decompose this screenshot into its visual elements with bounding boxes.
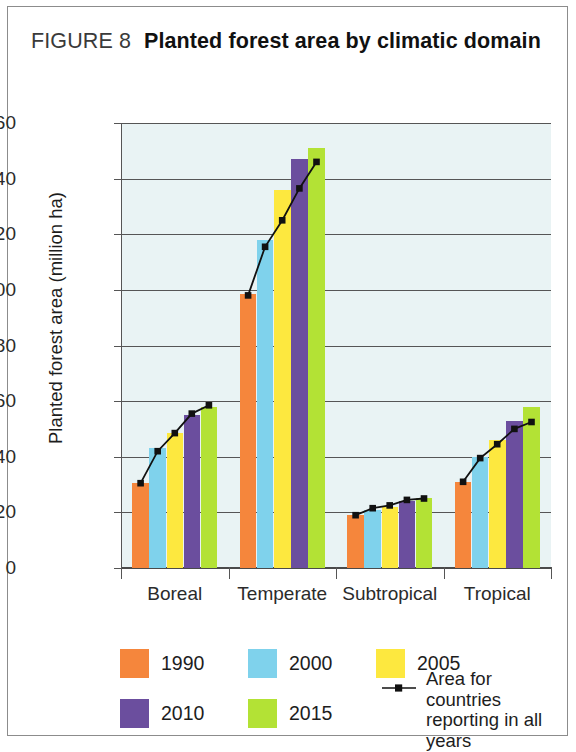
legend-swatch-2005 xyxy=(376,649,405,678)
overlay-line-series xyxy=(121,123,551,568)
category-tick xyxy=(551,567,552,579)
overlay-line-marker xyxy=(137,480,144,487)
overlay-line-marker xyxy=(352,512,359,519)
category-tick xyxy=(444,567,445,579)
y-tick-label: 160 xyxy=(0,112,16,134)
y-axis-title: Planted forest area (million ha) xyxy=(45,128,67,508)
overlay-line-marker xyxy=(404,497,411,504)
overlay-line-marker xyxy=(279,217,286,224)
chart-legend: 19902000200520102015 Area for countries … xyxy=(8,631,569,731)
y-tick-label: 140 xyxy=(0,168,16,190)
legend-swatch-2000 xyxy=(248,649,277,678)
legend-swatch-2015 xyxy=(248,699,277,728)
overlay-line-marker xyxy=(386,502,393,509)
y-tick-label: 120 xyxy=(0,223,16,245)
overlay-line-segment xyxy=(248,162,316,296)
overlay-line-marker xyxy=(154,448,161,455)
y-tick-label: 40 xyxy=(0,446,16,468)
overlay-line-marker xyxy=(189,410,196,417)
overlay-line-marker xyxy=(369,505,376,512)
overlay-line-marker xyxy=(206,402,213,409)
overlay-line-marker xyxy=(494,441,501,448)
legend-swatch-1990 xyxy=(120,649,149,678)
y-tick-label: 60 xyxy=(0,390,16,412)
figure-frame: FIGURE 8Planted forest area by climatic … xyxy=(7,6,568,736)
legend-label-2015: 2015 xyxy=(289,702,332,725)
legend-swatch-2010 xyxy=(120,699,149,728)
overlay-line-segment xyxy=(463,422,531,482)
overlay-line-marker xyxy=(528,419,535,426)
legend-label-2010: 2010 xyxy=(161,702,204,725)
overlay-line-marker xyxy=(477,455,484,462)
category-tick xyxy=(229,567,230,579)
y-tick-label: 100 xyxy=(0,279,16,301)
overlay-line-marker xyxy=(421,495,428,502)
chart-plot: 020406080100120140160 BorealTemperateSub… xyxy=(8,7,569,737)
legend-label-2000: 2000 xyxy=(289,652,332,675)
overlay-line-marker xyxy=(262,244,269,251)
overlay-line-marker xyxy=(172,430,179,437)
y-tick-label: 80 xyxy=(0,335,16,357)
overlay-line-marker xyxy=(245,292,252,299)
legend-line-marker-icon xyxy=(382,681,416,695)
overlay-line-marker xyxy=(296,185,303,192)
legend-series-label: Area for countries reporting in all year… xyxy=(426,669,569,752)
legend-label-1990: 1990 xyxy=(161,652,204,675)
y-tick-label: 20 xyxy=(0,501,16,523)
category-tick xyxy=(336,567,337,579)
y-tick-label: 0 xyxy=(0,557,16,579)
overlay-line-marker xyxy=(511,426,518,433)
overlay-line-marker xyxy=(460,479,467,486)
overlay-line-segment xyxy=(141,405,209,483)
category-tick xyxy=(121,567,122,579)
overlay-line-marker xyxy=(313,159,320,166)
category-label-tropical: Tropical xyxy=(427,583,567,605)
